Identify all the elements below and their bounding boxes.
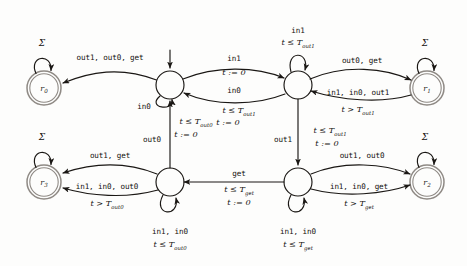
edge-label-qbl-to-qtl-guard2: t := 0 (174, 129, 197, 139)
edge-label-qtr-to-qbr-action: out1 (274, 135, 292, 144)
state-q-bottom-left (156, 168, 184, 196)
state-q-top-right (284, 71, 312, 99)
sigma-label-r3: Σ (39, 132, 45, 142)
edge-label-qbl-to-r3-action: out1, get (90, 151, 130, 160)
edge-label-qbr-to-qbl-guard2: t := 0 (227, 197, 250, 207)
edge-label-qbr-self-action: in1, in0 (280, 227, 316, 236)
state-label-r1: r1 (423, 84, 430, 95)
sigma-label-r2: Σ (422, 132, 428, 142)
state-label-r0: r0 (40, 84, 47, 95)
edge-qtr-to-r1 (310, 69, 411, 80)
edge-label-qbr-to-qbl-action: get (232, 169, 245, 178)
edge-qtr-self (290, 55, 306, 72)
edge-label-qtl-to-qtr-action: in1 (227, 54, 240, 63)
edge-label-qtr-to-qbr-guard2: t := 0 (315, 138, 338, 148)
edge-label-qtr-self-guard: t ≤ Tout1 (281, 37, 314, 49)
edge-qbr-self (288, 195, 304, 212)
automaton-figure: r0 r1 r2 r3 Σ Σ Σ Σ out1, out0, get in0 … (0, 0, 467, 266)
state-label-r2: r2 (423, 178, 430, 189)
edge-label-qtr-to-qtl-guard1: t ≤ Tout1 (222, 105, 255, 117)
edge-label-qtr-to-r1-action: out0, get (342, 56, 382, 65)
edge-label-qtl-self-action: in0 (137, 102, 150, 111)
state-q-bottom-right (284, 168, 312, 196)
edge-label-qbl-to-r3-action2: in1, in0, out0 (76, 182, 139, 191)
edge-qtl-to-r0 (63, 72, 157, 83)
edge-label-qbl-self-guard: t ≤ Tout0 (153, 239, 186, 251)
edge-label-qbr-to-r2-guard: t > Tget (344, 198, 374, 210)
edge-label-qtr-to-qtl-guard2: t := 0 (216, 117, 239, 127)
edge-label-r1-to-qtr-guard: t > Tout1 (341, 104, 374, 116)
state-label-r3: r3 (40, 178, 47, 189)
edge-label-qtr-self-action: in1 (291, 26, 304, 35)
edge-label-qbl-to-qtl-guard1: t ≤ Tout0 (179, 116, 212, 128)
edge-qbl-to-r3 (63, 165, 157, 174)
edge-label-qbr-to-r2-action2: in1, in0, get (330, 182, 388, 191)
edge-label-qtl-to-qtr-guard: t := 0 (222, 67, 245, 77)
sigma-label-r0: Σ (39, 38, 45, 48)
edge-label-qbr-to-qbl-guard1: t ≤ Tget (224, 184, 254, 196)
edge-qbl-self (160, 195, 176, 212)
state-q-top-left (156, 71, 184, 99)
automaton-canvas (0, 0, 467, 266)
sigma-label-r1: Σ (422, 38, 428, 48)
edge-label-qbl-to-qtl-action: out0 (143, 135, 161, 144)
edge-label-qbr-self-guard: t ≤ Tget (283, 239, 313, 251)
edge-label-qtl-to-r0-action: out1, out0, get (76, 53, 143, 62)
edge-label-qbr-to-r2-action: out1, out0 (340, 151, 385, 160)
edge-label-qbl-self-action: in1, in0 (152, 227, 188, 236)
edge-label-qtr-to-qtl-action: in0 (227, 86, 240, 95)
edge-label-qbl-to-r3-guard: t > Tout0 (90, 198, 123, 210)
edge-qbr-to-r2 (311, 165, 410, 174)
edge-label-qtr-to-qbr-guard1: t ≤ Tout1 (313, 125, 346, 137)
edge-label-r1-to-qtr-action: in1, in0, out1 (327, 88, 390, 97)
